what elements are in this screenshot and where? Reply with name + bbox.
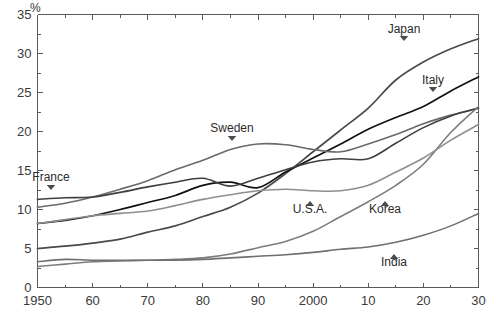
series-marker-italy-down-triangle-icon (429, 87, 437, 92)
series-line-india (38, 213, 479, 261)
y-tick-label: 20 (17, 124, 31, 139)
series-label-france: France (32, 170, 70, 184)
axis-ticks (38, 15, 479, 288)
y-tick-label: 30 (17, 46, 31, 61)
x-tick-label: 2000 (299, 293, 328, 308)
series-annotations: JapanItalySwedenFranceKoreaU.S.A.India (32, 22, 444, 269)
series-label-italy: Italy (422, 73, 444, 87)
series-marker-france-down-triangle-icon (47, 185, 55, 190)
x-tick-label: 80 (196, 293, 210, 308)
y-tick-label: 0 (24, 280, 31, 295)
x-tick-label: 90 (251, 293, 265, 308)
y-tick-label: 15 (17, 163, 31, 178)
series-line-italy (38, 77, 479, 224)
x-tick-label: 10 (361, 293, 375, 308)
line-chart-plot: JapanItalySwedenFranceKoreaU.S.A.India 1… (0, 0, 493, 318)
y-axis-unit-label: % (30, 1, 41, 15)
chart-container: JapanItalySwedenFranceKoreaU.S.A.India 1… (0, 0, 493, 318)
y-tick-label: 10 (17, 202, 31, 217)
series-marker-japan-down-triangle-icon (400, 36, 408, 41)
series-lines (38, 39, 479, 267)
x-tick-label: 60 (85, 293, 99, 308)
x-tick-label: 20 (416, 293, 430, 308)
series-label-japan: Japan (388, 22, 421, 36)
y-tick-label: 25 (17, 85, 31, 100)
series-marker-sweden-down-triangle-icon (228, 136, 236, 141)
axis-frame (38, 15, 479, 288)
series-label-sweden: Sweden (210, 121, 253, 135)
series-line-france (38, 108, 479, 199)
x-tick-label: 70 (141, 293, 155, 308)
x-tick-label: 30 (471, 293, 485, 308)
y-tick-label: 5 (24, 241, 31, 256)
